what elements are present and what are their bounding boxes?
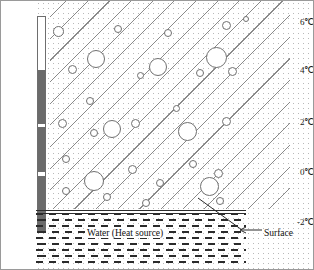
water-dash-row (36, 243, 246, 245)
air-bubble (189, 160, 197, 168)
air-bubble (90, 129, 98, 137)
air-bubble (137, 72, 144, 79)
air-bubble (206, 47, 227, 68)
air-bubble (84, 171, 104, 191)
temperature-scale-panel (1, 1, 34, 269)
temperature-tick-6: 6℃ (282, 18, 314, 27)
air-bubble (214, 169, 223, 178)
air-bubble (62, 187, 70, 195)
air-bubble (196, 69, 204, 77)
air-bubble (178, 122, 197, 141)
temperature-tick-0: 0℃ (282, 168, 314, 177)
figure-ice-over-water: 6℃4℃2℃0℃-2℃ Water (Heat source) Surface (0, 0, 314, 270)
air-bubble (58, 119, 67, 128)
mercury-segment-1 (38, 127, 45, 172)
air-bubble (114, 25, 122, 33)
air-bubble (68, 65, 77, 74)
water-dash-row (36, 261, 246, 263)
air-bubble (156, 179, 164, 187)
air-bubble (222, 21, 231, 30)
air-bubble (53, 26, 64, 37)
air-bubble (222, 117, 231, 126)
water-dash-row (36, 255, 246, 257)
water-heat-source-label: Water (Heat source) (86, 228, 164, 238)
air-bubble (131, 119, 140, 128)
air-bubble (149, 58, 167, 76)
ice-layer (50, 1, 313, 209)
air-bubble (228, 67, 237, 76)
air-bubble (142, 199, 150, 207)
surface-leader-line (196, 196, 266, 238)
air-bubble (87, 50, 105, 68)
air-bubble (173, 105, 180, 112)
water-dash-row (36, 249, 246, 251)
air-bubble (200, 177, 219, 196)
air-bubble (86, 97, 94, 105)
surface-label: Surface (264, 228, 293, 238)
air-bubble (128, 165, 137, 174)
air-bubble (62, 155, 70, 163)
air-bubble (243, 16, 249, 22)
air-bubble (164, 29, 172, 37)
air-bubble (103, 193, 111, 201)
temperature-tick-minus2: -2℃ (282, 218, 314, 227)
temperature-tick-4: 4℃ (282, 66, 314, 75)
mercury-segment-0 (38, 70, 45, 124)
air-bubble (103, 120, 121, 138)
temperature-tick-2: 2℃ (282, 118, 314, 127)
